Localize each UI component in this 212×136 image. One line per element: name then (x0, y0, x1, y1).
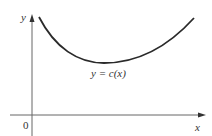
cost-curve-diagram: y x 0 y = c(x) (0, 0, 212, 136)
y-axis-arrowhead-icon (30, 14, 35, 22)
curve-c-of-x (39, 17, 194, 63)
origin-label: 0 (23, 119, 29, 131)
curve-label: y = c(x) (90, 67, 126, 80)
x-axis-arrowhead-icon (198, 113, 206, 118)
x-axis-label: x (194, 121, 200, 133)
y-axis-label: y (20, 11, 26, 23)
